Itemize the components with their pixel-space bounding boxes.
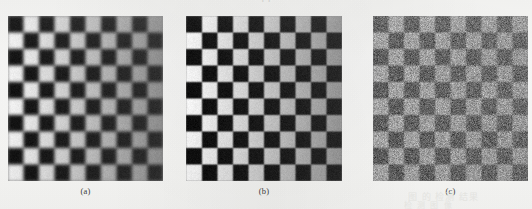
figure-panel-c — [373, 16, 528, 181]
figure-caption-a: (a) — [8, 186, 163, 196]
checkerboard-canvas-b — [186, 16, 342, 181]
figure-caption-b: (b) — [186, 186, 342, 196]
figure-panel-a — [8, 16, 163, 181]
top-cut-text: ( ) — [0, 0, 532, 2]
figure-panel-b — [186, 16, 342, 181]
checkerboard-canvas-a — [8, 16, 163, 181]
checkerboard-canvas-c — [373, 16, 528, 181]
page-showthrough-text-2: 检 测 图 像 — [404, 199, 453, 209]
